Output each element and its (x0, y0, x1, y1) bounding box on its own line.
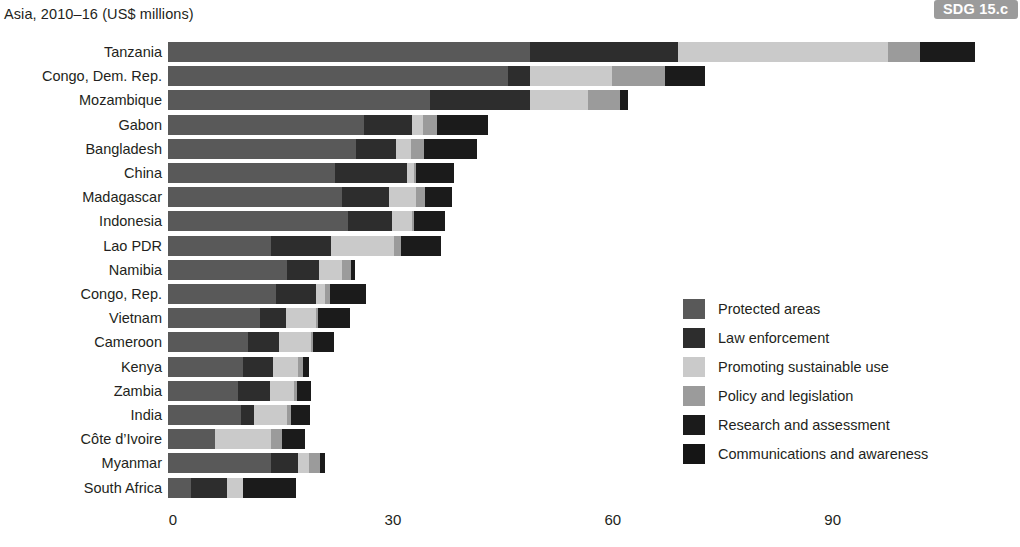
bar-segment (389, 187, 417, 207)
chart-row: Madagascar (0, 187, 1020, 207)
category-label-bangladesh: Bangladesh (85, 139, 162, 159)
category-label-zambia: Zambia (114, 381, 162, 401)
category-label-gabon: Gabon (118, 115, 162, 135)
bar-segment (437, 115, 488, 135)
bar-segment (271, 453, 298, 473)
legend-item[interactable]: Protected areas (683, 296, 1003, 322)
legend-swatch-icon (683, 415, 705, 435)
stacked-bar (168, 115, 488, 135)
bar-segment (411, 139, 423, 159)
bar-segment (243, 478, 296, 498)
bar-segment (424, 139, 477, 159)
bar-segment (423, 115, 437, 135)
chart-row: Tanzania (0, 42, 1020, 62)
bar-segment (414, 211, 446, 231)
bar-segment (348, 211, 392, 231)
x-axis-tick: 30 (385, 511, 402, 528)
bar-segment (342, 260, 350, 280)
stacked-bar (168, 478, 296, 498)
bar-segment (168, 453, 271, 473)
stacked-bar (168, 90, 628, 110)
bar-segment (356, 139, 396, 159)
bar-segment (168, 139, 356, 159)
bar-segment (168, 66, 508, 86)
bar-segment (330, 284, 366, 304)
bar-segment (430, 90, 530, 110)
bar-segment (241, 405, 254, 425)
bar-segment (588, 90, 620, 110)
stacked-bar (168, 139, 477, 159)
bar-segment (168, 236, 271, 256)
category-label-congo-dem-rep: Congo, Dem. Rep. (42, 66, 162, 86)
bar-segment (412, 115, 423, 135)
bar-segment (168, 284, 276, 304)
bar-segment (286, 308, 316, 328)
bar-segment (309, 453, 320, 473)
chart-row: Congo, Dem. Rep. (0, 66, 1020, 86)
chart-row: Lao PDR (0, 236, 1020, 256)
chart-figure: Asia, 2010–16 (US$ millions) SDG 15.c Ta… (0, 0, 1020, 547)
legend-swatch-icon (683, 328, 705, 348)
category-label-vietnam: Vietnam (109, 308, 162, 328)
bar-segment (270, 381, 294, 401)
bar-segment (316, 284, 325, 304)
category-label-china: China (124, 163, 162, 183)
category-label-cameroon: Cameroon (94, 332, 162, 352)
stacked-bar (168, 308, 350, 328)
stacked-bar (168, 260, 355, 280)
bar-segment (168, 115, 364, 135)
x-axis-tick: 0 (169, 511, 177, 528)
chart-row: Mozambique (0, 90, 1020, 110)
legend-item[interactable]: Communications and awareness (683, 441, 1003, 467)
bar-segment (297, 381, 311, 401)
bar-segment (168, 357, 243, 377)
stacked-bar (168, 42, 975, 62)
bar-segment (394, 236, 401, 256)
bar-segment (271, 429, 282, 449)
bar-segment (168, 187, 342, 207)
bar-segment (260, 308, 286, 328)
legend-item[interactable]: Research and assessment (683, 412, 1003, 438)
bar-segment (620, 90, 627, 110)
bar-segment (318, 308, 350, 328)
bar-segment (407, 163, 414, 183)
legend-item[interactable]: Policy and legislation (683, 383, 1003, 409)
bar-segment (276, 284, 316, 304)
bar-segment (168, 405, 241, 425)
legend-item[interactable]: Law enforcement (683, 325, 1003, 351)
bar-segment (331, 236, 394, 256)
legend-item[interactable]: Promoting sustainable use (683, 354, 1003, 380)
x-axis: 0306090 (0, 505, 1020, 547)
legend-swatch-icon (683, 299, 705, 319)
legend-label: Policy and legislation (718, 386, 853, 406)
bar-segment (238, 381, 270, 401)
bar-segment (168, 42, 530, 62)
bar-segment (191, 478, 227, 498)
category-label-south-africa: South Africa (84, 478, 162, 498)
legend-label: Promoting sustainable use (718, 357, 889, 377)
bar-segment (215, 429, 271, 449)
stacked-bar (168, 429, 305, 449)
bar-segment (342, 187, 388, 207)
legend-label: Law enforcement (718, 328, 829, 348)
bar-segment (273, 357, 299, 377)
stacked-bar (168, 163, 454, 183)
bar-segment (416, 163, 453, 183)
stacked-bar (168, 211, 445, 231)
bar-segment (920, 42, 975, 62)
bar-segment (665, 66, 705, 86)
chart-row: Namibia (0, 260, 1020, 280)
category-label-madagascar: Madagascar (82, 187, 162, 207)
stacked-bar (168, 332, 334, 352)
bar-segment (612, 66, 665, 86)
bar-segment (168, 308, 260, 328)
bar-segment (319, 260, 342, 280)
legend-label: Research and assessment (718, 415, 890, 435)
category-label-c-te-d-ivoire: Côte d’Ivoire (81, 429, 162, 449)
bar-segment (168, 260, 287, 280)
legend-swatch-icon (683, 357, 705, 377)
chart-row: Gabon (0, 115, 1020, 135)
bar-segment (291, 405, 310, 425)
legend-swatch-icon (683, 386, 705, 406)
bar-segment (303, 357, 309, 377)
